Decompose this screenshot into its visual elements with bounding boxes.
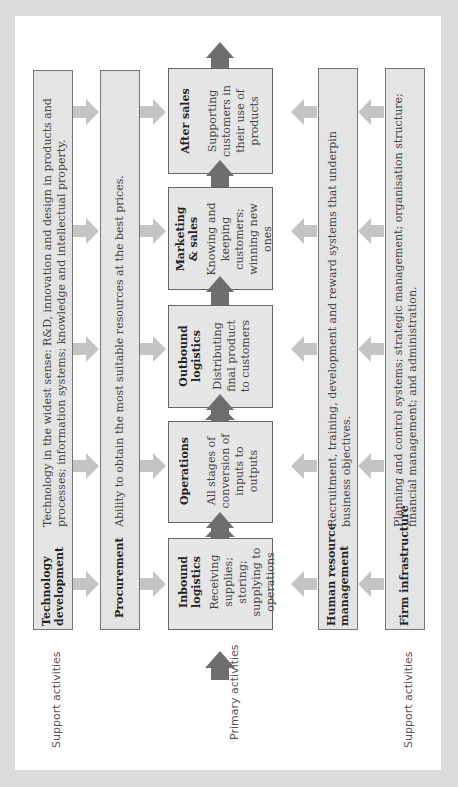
hr-description: Recruitment, training, development and r… <box>326 131 354 527</box>
hr-title: Human resource management <box>325 523 351 626</box>
arrow-right-icon <box>73 99 166 597</box>
primary-activities-label: Primary activities <box>228 644 241 740</box>
support-activities-label-bottom: Support activities <box>402 651 415 748</box>
firm-infrastructure-description: Planning and control systems; strategic … <box>392 93 420 527</box>
support-activities-label-top: Support activities <box>50 651 63 748</box>
